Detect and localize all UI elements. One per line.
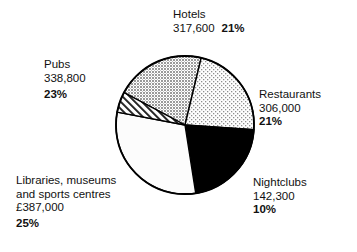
pie-label-pubs: Pubs 338,800 23% (44, 58, 86, 102)
pie-label-hotels: Hotels 317,60021% (173, 8, 245, 35)
pie-label-restaurants-percent: 21% (259, 115, 321, 129)
pie-label-libraries-percent: 25% (16, 217, 116, 231)
pie-slice-nightclubs (185, 125, 254, 193)
pie-chart: Hotels 317,60021% Pubs 338,800 23% Resta… (0, 0, 357, 252)
pie-label-restaurants-value: 306,000 (259, 102, 321, 116)
pie-label-nightclubs-value: 142,300 (253, 190, 307, 204)
pie-label-pubs-name: Pubs (44, 58, 86, 72)
pie-label-hotels-name: Hotels (173, 8, 245, 22)
pie-label-restaurants: Restaurants 306,000 21% (259, 88, 321, 129)
pie-label-libraries-name-line1: Libraries, museums (16, 174, 116, 188)
pie-label-nightclubs-name: Nightclubs (253, 176, 307, 190)
pie-label-pubs-value: 338,800 (44, 72, 86, 86)
pie-label-hotels-value: 317,600 (173, 22, 215, 34)
pie-label-libraries: Libraries, museums and sports centres £3… (16, 174, 116, 230)
pie-label-pubs-percent: 23% (44, 88, 86, 102)
pie-label-nightclubs-percent: 10% (253, 203, 307, 217)
pie-label-libraries-name-line2: and sports centres (16, 188, 116, 202)
pie-label-restaurants-name: Restaurants (259, 88, 321, 102)
pie-label-nightclubs: Nightclubs 142,300 10% (253, 176, 307, 217)
pie-label-hotels-percent: 21% (222, 22, 245, 34)
pie-label-libraries-value: £387,000 (16, 201, 116, 215)
